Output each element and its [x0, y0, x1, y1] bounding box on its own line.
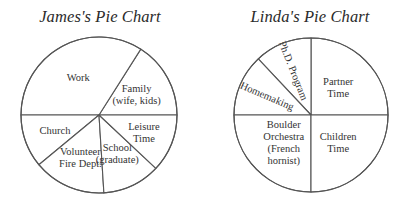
- linda-label-line: Partner: [323, 76, 354, 87]
- james-label-line: Church: [40, 125, 72, 136]
- linda-label-line: Orchestra: [263, 131, 304, 142]
- linda-label-line: Boulder: [267, 119, 301, 130]
- pie-charts-canvas: Family(wife, kids)WorkChurchVolunteerFir…: [0, 0, 406, 207]
- james-label-line: Leisure: [128, 121, 160, 132]
- linda-slice-children-time: [311, 115, 388, 192]
- james-label-work: Work: [67, 72, 91, 83]
- james-label-line: School: [103, 142, 132, 153]
- james-label-line: Family: [122, 83, 153, 94]
- linda-label-boulder-orchestra-french-hornist: BoulderOrchestra(Frenchhornist): [263, 119, 304, 167]
- linda-label-line: hornist): [267, 155, 300, 167]
- james-pie-chart: Family(wife, kids)WorkChurchVolunteerFir…: [21, 37, 177, 193]
- linda-label-line: (French: [267, 143, 300, 155]
- james-label-line: (graduate): [96, 154, 140, 166]
- linda-pie-chart: PartnerTimePh.D. ProgramHomemakingBoulde…: [234, 38, 388, 192]
- james-label-church: Church: [40, 125, 72, 136]
- linda-label-line: Children: [320, 131, 357, 142]
- james-label-line: Time: [133, 133, 155, 144]
- james-label-line: (wife, kids): [112, 95, 161, 107]
- linda-label-line: Time: [327, 88, 349, 99]
- linda-label-line: Time: [327, 143, 349, 154]
- james-label-line: Work: [67, 72, 91, 83]
